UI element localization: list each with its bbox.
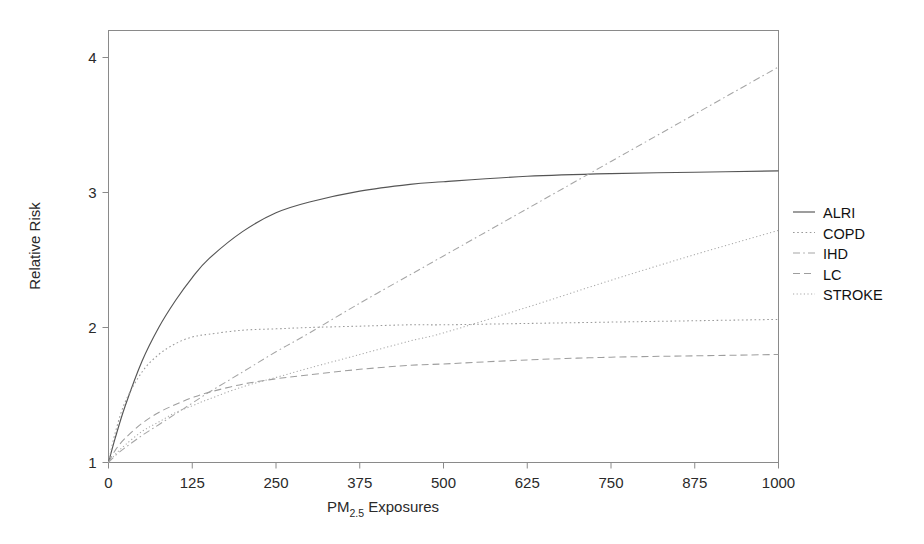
y-tick-label: 1 [88, 454, 96, 471]
legend-label-copd: COPD [823, 226, 865, 242]
legend-label-stroke: STROKE [823, 287, 883, 303]
x-tick-label: 125 [180, 474, 205, 491]
x-tick-label: 375 [347, 474, 372, 491]
x-tick-label: 625 [515, 474, 540, 491]
legend-label-ihd: IHD [823, 246, 848, 262]
y-tick-label: 3 [88, 184, 96, 201]
relative-risk-line-chart: 1234 01252503755006257508751000 Relative… [0, 0, 924, 544]
x-tick-label: 500 [431, 474, 456, 491]
x-tick-label: 0 [104, 474, 112, 491]
x-axis-title-subscript: 2.5 [349, 507, 364, 519]
x-axis-title-main: PM [327, 498, 350, 515]
legend-label-alri: ALRI [823, 205, 855, 221]
x-tick-label: 875 [682, 474, 707, 491]
y-tick-label: 4 [88, 49, 96, 66]
x-tick-label: 250 [263, 474, 288, 491]
chart-figure: 1234 01252503755006257508751000 Relative… [0, 0, 924, 544]
legend-label-lc: LC [823, 267, 842, 283]
x-tick-label: 750 [598, 474, 623, 491]
x-tick-label: 1000 [762, 474, 795, 491]
x-axis-title-tail: Exposures [364, 498, 439, 515]
y-axis-title: Relative Risk [26, 202, 43, 290]
y-tick-label: 2 [88, 319, 96, 336]
